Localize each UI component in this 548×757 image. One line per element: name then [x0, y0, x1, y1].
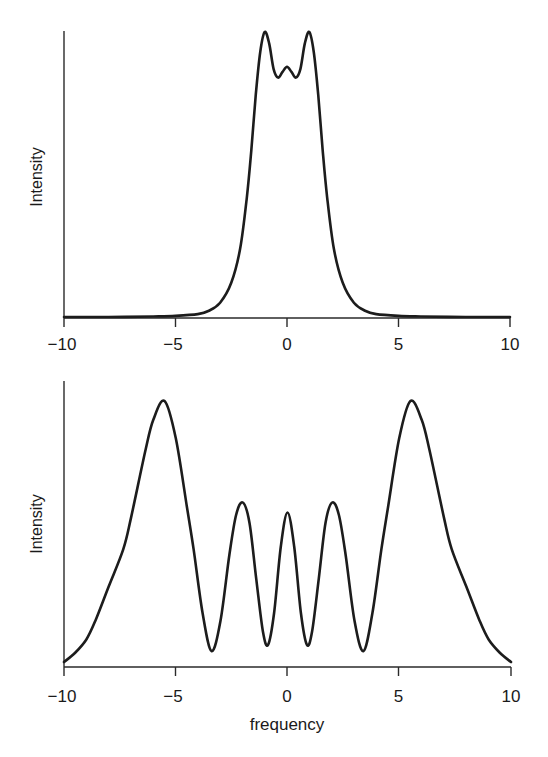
top-intensity-curve: [64, 32, 510, 317]
top-tick-label: 10: [501, 335, 520, 354]
top-tick-label: 0: [282, 335, 291, 354]
top-tick-label: −5: [163, 335, 182, 354]
top-tick-label: −10: [48, 335, 77, 354]
top-tick-labels: −10 −5 0 5 10: [48, 335, 520, 354]
bottom-tick-label: −10: [48, 687, 77, 706]
bottom-tick-labels: −10 −5 0 5 10: [48, 687, 521, 706]
bottom-tick-label: 5: [394, 687, 403, 706]
top-x-ticks: [64, 318, 510, 327]
bottom-tick-label: 10: [502, 687, 521, 706]
top-y-axis-label: Intensity: [28, 147, 45, 207]
bottom-tick-label: 0: [282, 687, 291, 706]
bottom-x-axis-label: frequency: [250, 715, 325, 734]
bottom-tick-label: −5: [163, 687, 182, 706]
bottom-y-axis-label: Intensity: [28, 494, 45, 554]
top-tick-label: 5: [394, 335, 403, 354]
top-panel: −10 −5 0 5 10 Intensity: [28, 31, 519, 354]
figure: −10 −5 0 5 10 Intensity −10 −5 0 5 10 In…: [0, 0, 548, 757]
bottom-x-ticks: [64, 667, 511, 676]
bottom-panel: −10 −5 0 5 10 Intensity frequency: [28, 381, 520, 734]
bottom-intensity-curve: [64, 401, 511, 662]
